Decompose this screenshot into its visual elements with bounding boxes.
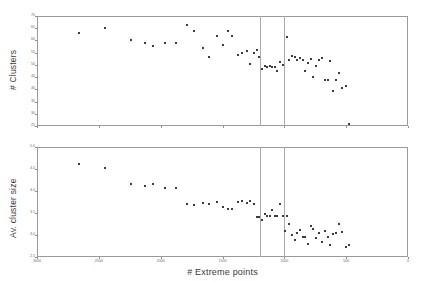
data-point — [261, 68, 263, 70]
data-point — [276, 215, 278, 217]
data-point — [341, 87, 343, 89]
data-point — [193, 204, 195, 206]
figure-canvas: # Clusters 25303540455055606570 Av. clus… — [0, 0, 422, 282]
data-point — [241, 200, 243, 202]
data-point — [318, 59, 320, 61]
x-tick-mark — [408, 126, 409, 128]
data-point — [304, 236, 306, 238]
data-point — [237, 54, 239, 56]
data-point — [144, 42, 146, 44]
data-point — [271, 209, 273, 211]
data-point — [327, 79, 329, 81]
data-point — [216, 201, 218, 203]
data-point — [222, 44, 224, 46]
data-point — [294, 56, 296, 58]
y-tick-mark — [35, 65, 37, 66]
y-tick-label: 45 — [25, 75, 35, 79]
y-tick-mark — [35, 77, 37, 78]
data-point — [332, 233, 334, 235]
data-point — [310, 225, 312, 227]
data-point — [282, 64, 284, 66]
data-point — [175, 187, 177, 189]
data-point — [186, 203, 188, 205]
x-tick-label: 2500 — [95, 260, 103, 264]
data-point — [256, 49, 258, 51]
data-point — [231, 35, 233, 37]
x-tick-mark — [223, 126, 224, 128]
data-point — [348, 123, 350, 125]
data-point — [208, 56, 210, 58]
data-point — [291, 234, 293, 236]
data-point — [321, 241, 323, 243]
reference-vline — [260, 147, 261, 257]
data-point — [104, 167, 106, 169]
data-point — [241, 52, 243, 54]
x-tick-label: 0 — [407, 260, 409, 264]
x-tick-mark — [346, 126, 347, 128]
data-point — [299, 229, 301, 231]
y-tick-label: 4.5 — [25, 167, 35, 171]
y-tick-label: 25 — [25, 124, 35, 128]
data-point — [310, 58, 312, 60]
data-point — [227, 208, 229, 210]
data-point — [315, 65, 317, 67]
y-tick-mark — [35, 53, 37, 54]
data-point — [296, 232, 298, 234]
data-point — [327, 236, 329, 238]
plot-frame-avg-size — [37, 147, 408, 257]
y-tick-mark — [35, 191, 37, 192]
data-point — [164, 187, 166, 189]
y-tick-label: 4.0 — [25, 189, 35, 193]
data-point — [296, 59, 298, 61]
data-point — [304, 70, 306, 72]
y-tick-mark — [35, 102, 37, 103]
data-point — [164, 42, 166, 44]
data-point — [286, 215, 288, 217]
data-point — [202, 202, 204, 204]
x-tick-label: 1500 — [219, 260, 227, 264]
data-point — [78, 163, 80, 165]
data-point — [130, 39, 132, 41]
data-point — [193, 30, 195, 32]
data-point — [78, 32, 80, 34]
y-tick-label: 40 — [25, 88, 35, 92]
y-tick-label: 65 — [25, 26, 35, 30]
y-tick-mark — [35, 28, 37, 29]
data-point — [329, 60, 331, 62]
data-point — [338, 223, 340, 225]
y-tick-label: 70 — [25, 14, 35, 18]
x-tick-label: 3000 — [33, 260, 41, 264]
y-tick-label: 5.0 — [25, 145, 35, 149]
data-point — [246, 202, 248, 204]
data-point — [286, 36, 288, 38]
data-point — [269, 215, 271, 217]
x-tick-mark — [37, 126, 38, 128]
y-tick-label: 3.0 — [25, 233, 35, 237]
data-point — [324, 230, 326, 232]
data-point — [348, 244, 350, 246]
y-tick-mark — [35, 235, 37, 236]
reference-vline — [284, 147, 285, 257]
data-point — [258, 56, 260, 58]
data-point — [175, 42, 177, 44]
y-tick-label: 3.5 — [25, 211, 35, 215]
y-tick-mark — [35, 89, 37, 90]
data-point — [216, 35, 218, 37]
y-tick-mark — [35, 114, 37, 115]
data-point — [324, 79, 326, 81]
data-point — [186, 24, 188, 26]
reference-vline — [260, 16, 261, 126]
data-point — [237, 201, 239, 203]
data-point — [288, 59, 290, 61]
reference-vline — [284, 16, 285, 126]
data-point — [341, 231, 343, 233]
data-point — [312, 228, 314, 230]
data-point — [261, 219, 263, 221]
data-point — [321, 57, 323, 59]
data-point — [208, 203, 210, 205]
data-point — [202, 47, 204, 49]
x-tick-label: 500 — [343, 260, 349, 264]
data-point — [284, 230, 286, 232]
x-tick-label: 2000 — [157, 260, 165, 264]
data-point — [253, 203, 255, 205]
